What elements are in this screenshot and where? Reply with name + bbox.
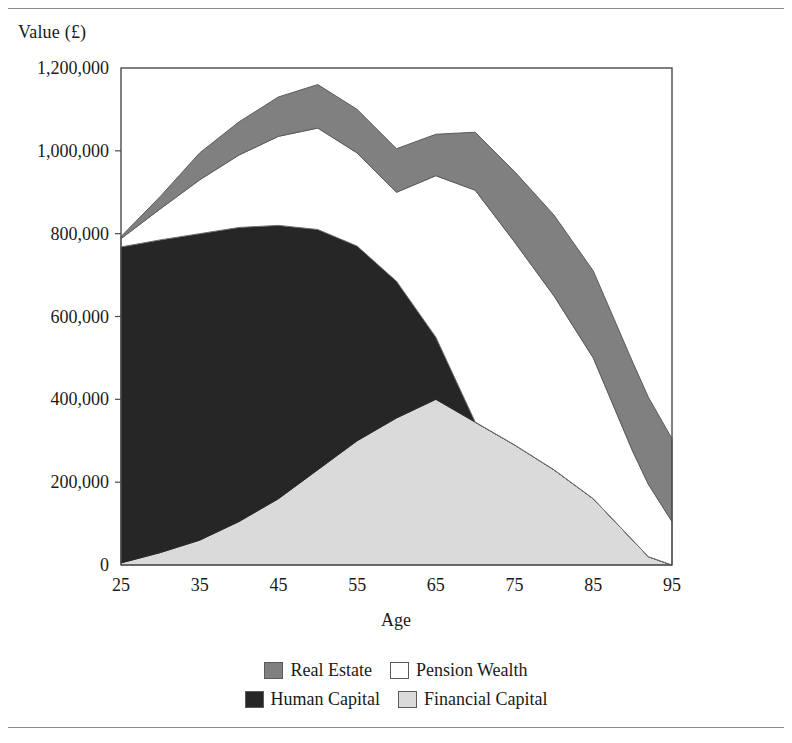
legend-label-human-capital: Human Capital [271,689,380,710]
x-tick-label: 45 [269,575,287,595]
y-tick-label: 600,000 [51,307,110,327]
x-axis-title: Age [0,610,792,631]
x-tick-label: 25 [112,575,130,595]
chart-legend: Real Estate Pension Wealth Human Capital… [0,660,792,710]
x-tick-label: 95 [663,575,681,595]
legend-item-real-estate[interactable]: Real Estate [264,660,371,681]
x-tick-label: 35 [191,575,209,595]
legend-row-1: Real Estate Pension Wealth [264,660,527,681]
chart-area: 0200,000400,000600,000800,0001,000,0001,… [0,0,792,650]
legend-swatch-human-capital [245,691,264,708]
y-tick-label: 800,000 [51,224,110,244]
legend-item-financial-capital[interactable]: Financial Capital [398,689,547,710]
legend-item-human-capital[interactable]: Human Capital [245,689,380,710]
legend-swatch-pension-wealth [390,662,409,679]
y-tick-label: 200,000 [51,472,110,492]
y-tick-label: 1,000,000 [37,141,109,161]
legend-item-pension-wealth[interactable]: Pension Wealth [390,660,528,681]
legend-swatch-real-estate [264,662,283,679]
legend-label-financial-capital: Financial Capital [424,689,547,710]
stacked-area-chart: 0200,000400,000600,000800,0001,000,0001,… [0,0,792,650]
x-tick-label: 65 [427,575,445,595]
y-tick-label: 1,200,000 [37,58,109,78]
legend-row-2: Human Capital Financial Capital [245,689,548,710]
y-tick-label: 400,000 [51,389,110,409]
figure-page: Value (£) 0200,000400,000600,000800,0001… [0,0,792,743]
bottom-rule [8,727,784,728]
x-tick-label: 85 [584,575,602,595]
legend-label-real-estate: Real Estate [290,660,371,681]
y-tick-label: 0 [100,555,109,575]
legend-swatch-financial-capital [398,691,417,708]
x-tick-label: 55 [348,575,366,595]
x-tick-label: 75 [506,575,524,595]
legend-label-pension-wealth: Pension Wealth [416,660,528,681]
